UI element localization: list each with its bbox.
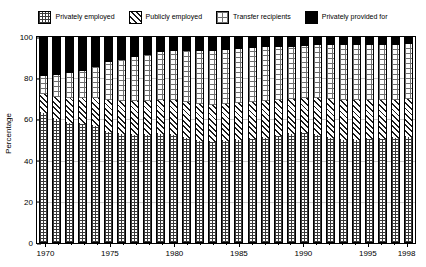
bar-segment: [52, 119, 61, 243]
bar-segment: [391, 37, 400, 45]
bar-1974[interactable]: [91, 37, 100, 243]
bar-1971[interactable]: [52, 37, 61, 243]
x-axis-minor-tick: [394, 243, 395, 245]
bar-segment: [313, 45, 322, 98]
bar-segment: [130, 37, 139, 57]
bar-1990[interactable]: [300, 37, 309, 243]
bar-segment: [65, 123, 74, 244]
x-axis-tick-mark: [45, 243, 46, 247]
legend-item-privately-employed: Privately employed: [38, 11, 114, 24]
bar-segment: [313, 37, 322, 45]
bar-1984[interactable]: [221, 37, 230, 243]
x-axis-tick-label: 1975: [101, 249, 119, 258]
bar-segment: [78, 98, 87, 124]
chart-legend: Privately employed Publicly employed Tra…: [0, 7, 426, 27]
bar-segment: [182, 37, 191, 51]
bar-1987[interactable]: [261, 37, 270, 243]
bar-1977[interactable]: [130, 37, 139, 243]
bar-segment: [365, 100, 374, 139]
bar-segment: [117, 101, 126, 134]
bar-1989[interactable]: [287, 37, 296, 243]
bar-1981[interactable]: [182, 37, 191, 243]
bar-1988[interactable]: [274, 37, 283, 243]
bar-segment: [261, 101, 270, 138]
x-axis-tick-label: 1985: [230, 249, 248, 258]
y-axis-tick-label: 100: [20, 33, 37, 42]
bar-segment: [156, 100, 165, 134]
bar-segment: [248, 48, 257, 102]
bar-1986[interactable]: [248, 37, 257, 243]
bar-segment: [143, 135, 152, 243]
bar-segment: [300, 37, 309, 46]
bar-1970[interactable]: [39, 37, 48, 243]
bar-1994[interactable]: [352, 37, 361, 243]
bar-segment: [39, 113, 48, 243]
bar-segment: [117, 134, 126, 243]
x-axis-minor-tick: [316, 243, 317, 245]
y-axis-title-text: Percentage: [4, 113, 13, 154]
bar-segment: [104, 62, 113, 100]
bar-segment: [221, 50, 230, 104]
bar-1980[interactable]: [169, 37, 178, 243]
x-axis-tick-label: 1998: [398, 249, 416, 258]
y-axis-tick-mark: [37, 243, 41, 244]
bar-segment: [261, 138, 270, 243]
bar-segment: [182, 102, 191, 138]
bar-1995[interactable]: [365, 37, 374, 243]
bar-segment: [352, 100, 361, 140]
bar-1992[interactable]: [326, 37, 335, 243]
bar-1975[interactable]: [104, 37, 113, 243]
bar-segment: [248, 37, 257, 48]
bar-segment: [169, 100, 178, 135]
y-axis-tick-label: 40: [24, 156, 37, 165]
bar-segment: [326, 37, 335, 45]
bar-segment: [39, 94, 48, 114]
bar-1982[interactable]: [195, 37, 204, 243]
bar-segment: [378, 100, 387, 139]
bar-segment: [52, 97, 61, 120]
bar-1976[interactable]: [117, 37, 126, 243]
bar-segment: [182, 51, 191, 101]
bar-1978[interactable]: [143, 37, 152, 243]
x-axis-tick-label: 1970: [37, 249, 55, 258]
bar-segment: [39, 37, 48, 76]
bar-1996[interactable]: [378, 37, 387, 243]
bar-segment: [365, 139, 374, 243]
bar-segment: [65, 98, 74, 123]
bar-segment: [287, 37, 296, 47]
bar-segment: [208, 142, 217, 243]
x-axis-minor-tick: [278, 243, 279, 245]
x-axis-tick-mark: [303, 243, 304, 247]
bar-1983[interactable]: [208, 37, 217, 243]
bar-1997[interactable]: [391, 37, 400, 243]
bar-segment: [52, 75, 61, 97]
bar-segment: [143, 101, 152, 135]
bar-1998[interactable]: [404, 37, 413, 243]
bar-segment: [221, 104, 230, 141]
y-axis-tick-label: 80: [24, 74, 37, 83]
bar-1985[interactable]: [234, 37, 243, 243]
bar-segment: [352, 37, 361, 45]
bar-1979[interactable]: [156, 37, 165, 243]
legend-item-publicly-employed: Publicly employed: [129, 11, 202, 24]
bar-segment: [391, 45, 400, 100]
x-axis-tick-label: 1980: [166, 249, 184, 258]
bar-segment: [182, 138, 191, 243]
bar-segment: [404, 44, 413, 99]
bar-segment: [78, 37, 87, 71]
bar-segment: [326, 99, 335, 138]
bar-1973[interactable]: [78, 37, 87, 243]
bar-1972[interactable]: [65, 37, 74, 243]
bar-segment: [261, 37, 270, 47]
y-axis-tick-label: 0: [29, 239, 37, 248]
bar-1993[interactable]: [339, 37, 348, 243]
bar-segment: [378, 37, 387, 45]
bar-segment: [130, 57, 139, 101]
bar-1991[interactable]: [313, 37, 322, 243]
bar-segment: [404, 99, 413, 137]
bar-segment: [117, 37, 126, 60]
bar-segment: [391, 138, 400, 243]
x-axis-minor-tick: [355, 243, 356, 245]
bar-segment: [156, 134, 165, 243]
legend-label-privately-provided-for: Privately provided for: [322, 13, 388, 21]
